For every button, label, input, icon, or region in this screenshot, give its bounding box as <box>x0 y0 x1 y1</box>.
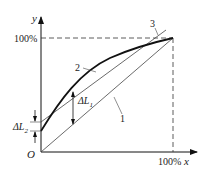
y-100-label: 100% <box>14 33 37 44</box>
x-100-label: 100% <box>158 156 181 167</box>
delta-l1-arrow-bottom <box>71 119 75 125</box>
curve-3-label: 3 <box>150 18 155 29</box>
curve-2-label: 2 <box>75 62 80 73</box>
delta-l1-arrow-top <box>71 91 75 97</box>
characteristic-diagram: y x O 100% 100% 1 2 3 ΔL1 ΔL2 <box>0 0 209 174</box>
y-axis-label: y <box>31 12 37 24</box>
origin-label: O <box>27 148 35 160</box>
line-1 <box>41 38 173 152</box>
x-axis-label: x <box>183 155 189 167</box>
delta-l2-label: ΔL2 <box>12 121 28 135</box>
delta-l1-label: ΔL1 <box>77 95 93 109</box>
delta-l2-arrow-top <box>33 116 37 122</box>
delta-l2-arrow-bottom <box>33 131 37 137</box>
curve-1-label: 1 <box>120 113 125 124</box>
leader-1 <box>114 97 122 114</box>
leader-3 <box>155 28 158 35</box>
curve-2 <box>41 38 173 131</box>
